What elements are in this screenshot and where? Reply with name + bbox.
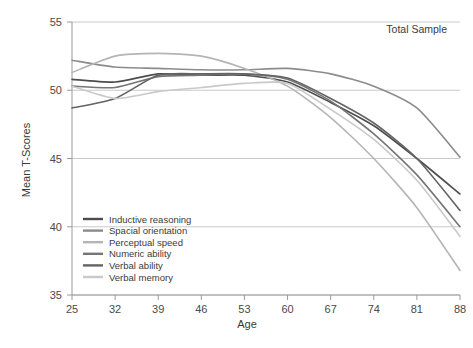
legend-label: Verbal memory	[109, 272, 173, 283]
legend-label: Spacial orientation	[109, 225, 187, 236]
x-axis-tick-label: 32	[109, 303, 121, 315]
y-axis-tick-label: 55	[50, 16, 62, 28]
x-axis-tick-label: 39	[152, 303, 164, 315]
line-chart: 3540455055 25323946536067748188 Total Sa…	[0, 0, 473, 348]
chart-svg: 3540455055 25323946536067748188 Total Sa…	[0, 0, 473, 348]
y-axis-title: Mean T-Scores	[20, 122, 32, 197]
x-axis-tick-label: 60	[281, 303, 293, 315]
x-axis-tick-label: 74	[368, 303, 380, 315]
x-axis-title: Age	[237, 318, 257, 330]
legend: Inductive reasoningSpacial orientationPe…	[83, 214, 191, 283]
y-axis-tick-label: 40	[50, 221, 62, 233]
x-axis-tick-label: 53	[238, 303, 250, 315]
x-axis-tick-label: 88	[454, 303, 466, 315]
y-axis-tick-label: 35	[50, 289, 62, 301]
x-axis-tick-label: 25	[66, 303, 78, 315]
legend-label: Perceptual speed	[109, 237, 183, 248]
legend-label: Verbal ability	[109, 260, 163, 271]
series-line	[72, 74, 460, 194]
legend-label: Inductive reasoning	[109, 214, 191, 225]
y-axis-tick-label: 50	[50, 84, 62, 96]
y-axis-tick-label: 45	[50, 153, 62, 165]
x-axis-ticks: 25323946536067748188	[66, 295, 466, 315]
x-axis-tick-label: 46	[195, 303, 207, 315]
legend-label: Numeric ability	[109, 248, 172, 259]
x-axis-tick-label: 81	[411, 303, 423, 315]
total-sample-annotation: Total Sample	[386, 23, 447, 35]
x-axis-tick-label: 67	[325, 303, 337, 315]
y-axis-ticks: 3540455055	[50, 16, 72, 301]
